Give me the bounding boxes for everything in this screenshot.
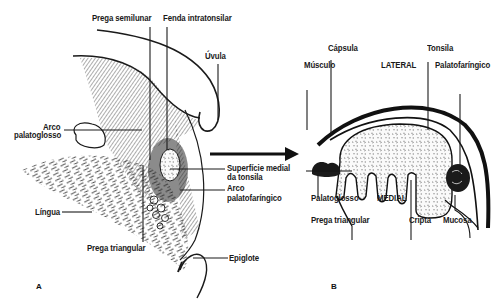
label-cripta: Cripta: [409, 216, 431, 225]
label-arco-palatofaringico-1: Arco: [227, 184, 244, 193]
panel-letter-a: A: [36, 282, 42, 291]
label-medial: MEDIAL: [377, 194, 406, 203]
panel-letter-b: B: [331, 282, 337, 291]
label-superficie-medial-2: da tonsila: [227, 173, 263, 182]
label-palatofaringico: Palatofaríngico: [435, 61, 490, 70]
label-uvula: Úvula: [205, 52, 226, 61]
label-prega-triangular-b: Prega triangular: [311, 216, 370, 225]
label-musculo: Músculo: [304, 61, 335, 70]
label-lateral: LATERAL: [381, 61, 416, 70]
label-lingua: Língua: [35, 208, 60, 217]
label-tonsila: Tonsila: [427, 44, 453, 53]
arrow-right-icon: [210, 147, 299, 161]
label-arco-palatoglosso-2: palatoglosso: [14, 131, 61, 140]
panel-b-drawing: [306, 60, 488, 240]
label-mucosa: Mucosa: [443, 216, 472, 225]
label-fenda-intratonsilar: Fenda intratonsilar: [163, 14, 232, 23]
panel-a-drawing: [22, 27, 228, 298]
label-capsula: Cápsula: [328, 44, 358, 53]
label-palatoglosso: Palatoglosso: [311, 194, 359, 203]
label-prega-semilunar: Prega semilunar: [92, 14, 151, 23]
label-prega-triangular-a: Prega triangular: [87, 244, 146, 253]
label-epiglote: Epiglote: [229, 254, 259, 263]
label-arco-palatofaringico-2: palatofaríngico: [227, 194, 282, 203]
